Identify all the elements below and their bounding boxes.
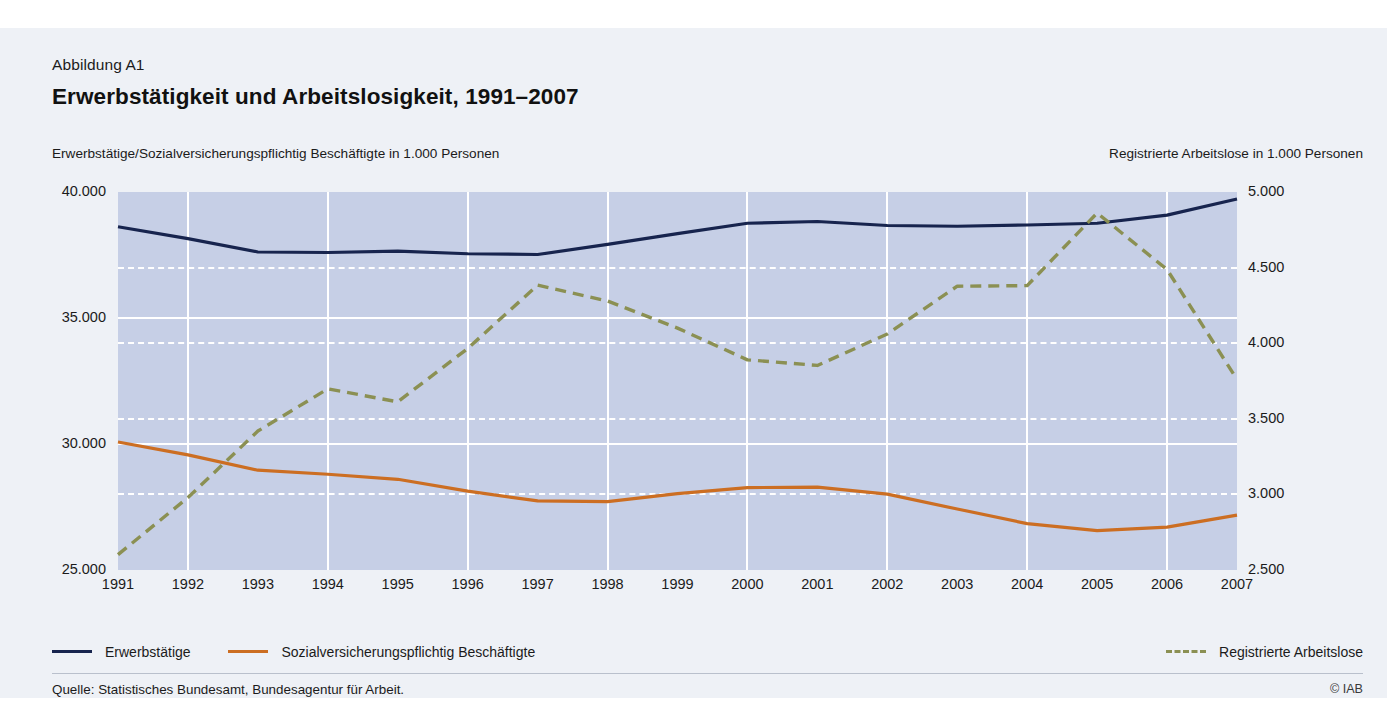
right-axis-tick-label: 3.000 bbox=[1248, 485, 1284, 501]
x-axis-tick-label: 2007 bbox=[1202, 576, 1272, 592]
x-axis-tick-label: 1995 bbox=[363, 576, 433, 592]
x-axis-tick-label: 1991 bbox=[83, 576, 153, 592]
legend-line-icon-erwerbstaetige bbox=[52, 650, 92, 653]
x-axis-tick-label: 2005 bbox=[1062, 576, 1132, 592]
figure-title: Erwerbstätigkeit und Arbeitslosigkeit, 1… bbox=[52, 84, 579, 110]
page-top-margin bbox=[0, 0, 1387, 28]
plot-area bbox=[118, 192, 1237, 570]
x-axis-tick-label: 1993 bbox=[223, 576, 293, 592]
x-axis-tick-label: 1996 bbox=[433, 576, 503, 592]
source-note: Quelle: Statistisches Bundesamt, Bundesa… bbox=[52, 682, 404, 697]
page-bottom-margin bbox=[0, 698, 1387, 728]
left-axis-tick-label: 30.000 bbox=[62, 435, 106, 451]
series-line-0 bbox=[118, 199, 1237, 254]
legend-left: Erwerbstätige Sozialversicherungspflicht… bbox=[52, 640, 569, 662]
legend-item-erwerbstaetige: Erwerbstätige bbox=[52, 644, 191, 660]
legend-item-arbeitslose: Registrierte Arbeitslose bbox=[1166, 644, 1363, 660]
series-line-2 bbox=[118, 213, 1237, 555]
x-axis-tick-label: 1998 bbox=[573, 576, 643, 592]
x-axis-tick-label: 2003 bbox=[922, 576, 992, 592]
x-axis-tick-label: 2000 bbox=[712, 576, 782, 592]
legend-item-sozialversicherungspflichtig: Sozialversicherungspflichtig Beschäftigt… bbox=[228, 644, 535, 660]
right-axis-tick-label: 5.000 bbox=[1248, 183, 1284, 199]
x-axis-tick-label: 1999 bbox=[643, 576, 713, 592]
right-axis-tick-label: 2.500 bbox=[1248, 561, 1284, 577]
right-axis-tick-label: 4.000 bbox=[1248, 334, 1284, 350]
figure-label: Abbildung A1 bbox=[52, 56, 145, 74]
left-axis-tick-label: 25.000 bbox=[62, 561, 106, 577]
right-axis-caption: Registrierte Arbeitslose in 1.000 Person… bbox=[1109, 146, 1363, 161]
footer-divider bbox=[52, 673, 1363, 674]
x-axis-tick-label: 2006 bbox=[1132, 576, 1202, 592]
left-axis-tick-label: 40.000 bbox=[62, 183, 106, 199]
left-axis-tick-label: 35.000 bbox=[62, 309, 106, 325]
series-layer bbox=[118, 192, 1237, 570]
x-axis-tick-label: 1992 bbox=[153, 576, 223, 592]
figure-panel: Abbildung A1 Erwerbstätigkeit und Arbeit… bbox=[0, 28, 1387, 698]
x-axis-tick-label: 2004 bbox=[992, 576, 1062, 592]
legend-label-arbeitslose: Registrierte Arbeitslose bbox=[1219, 644, 1363, 660]
legend-label-erwerbstaetige: Erwerbstätige bbox=[105, 644, 191, 660]
x-axis-tick-label: 2001 bbox=[782, 576, 852, 592]
x-axis-tick-label: 2002 bbox=[852, 576, 922, 592]
series-line-1 bbox=[118, 442, 1237, 531]
legend-label-sozialversicherungspflichtig: Sozialversicherungspflichtig Beschäftigt… bbox=[281, 644, 535, 660]
legend-right: Registrierte Arbeitslose bbox=[1166, 640, 1363, 662]
copyright-note: © IAB bbox=[1330, 682, 1363, 696]
right-axis-tick-label: 3.500 bbox=[1248, 410, 1284, 426]
legend-line-icon-arbeitslose bbox=[1166, 650, 1206, 653]
left-axis-caption: Erwerbstätige/Sozialversicherungspflicht… bbox=[52, 146, 499, 161]
legend-line-icon-sozialversicherungspflichtig bbox=[228, 650, 268, 653]
x-axis-tick-label: 1997 bbox=[503, 576, 573, 592]
right-axis-tick-label: 4.500 bbox=[1248, 259, 1284, 275]
x-axis-tick-label: 1994 bbox=[293, 576, 363, 592]
